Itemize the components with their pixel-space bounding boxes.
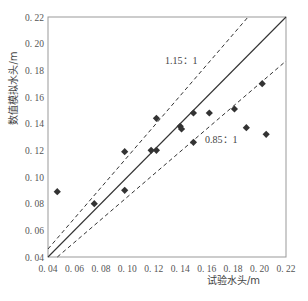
y-tick-label: 0. 22 (25, 13, 44, 23)
x-tick-label: 0. 12 (144, 264, 163, 274)
x-tick-label: 0. 22 (277, 264, 296, 274)
y-tick-label: 0. 18 (25, 66, 44, 76)
x-tick-label: 0. 18 (224, 264, 243, 274)
y-tick-label: 0. 06 (25, 226, 44, 236)
x-tick-label: 0. 14 (171, 264, 190, 274)
y-tick-label: 0. 20 (25, 39, 44, 49)
x-tick-label: 0. 04 (39, 264, 58, 274)
x-tick-label: 0. 06 (65, 264, 84, 274)
x-tick-label: 0. 16 (197, 264, 216, 274)
upper-ratio-label: 1.15：1 (165, 55, 198, 66)
x-axis-ticks: 0. 040. 060. 080. 100. 120. 140. 160. 18… (39, 264, 296, 274)
y-tick-label: 0. 10 (25, 173, 44, 183)
x-tick-label: 0. 20 (250, 264, 269, 274)
x-tick-label: 0. 08 (91, 264, 110, 274)
y-tick-label: 0. 12 (25, 146, 44, 156)
y-tick-label: 0. 14 (25, 119, 44, 129)
y-axis-title: 数值模拟水头/m (7, 51, 19, 124)
y-tick-label: 0. 08 (25, 199, 44, 209)
y-tick-label: 0. 04 (25, 253, 44, 263)
y-tick-label: 0. 16 (25, 93, 44, 103)
y-axis-ticks: 0. 040. 060. 080. 100. 120. 140. 160. 18… (25, 13, 44, 263)
x-tick-label: 0. 10 (118, 264, 137, 274)
x-axis-title: 试验水头/m (207, 274, 260, 286)
scatter-chart: 0. 040. 060. 080. 100. 120. 140. 160. 18… (0, 0, 308, 301)
lower-ratio-label: 0.85：1 (205, 134, 238, 145)
